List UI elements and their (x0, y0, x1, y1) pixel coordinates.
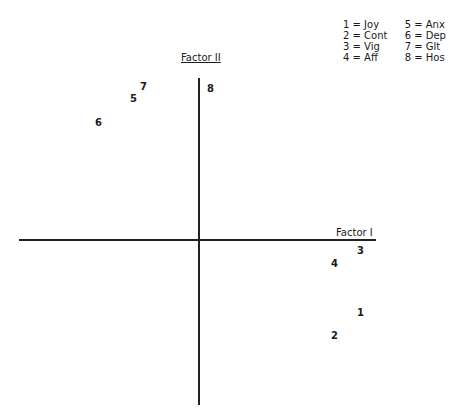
point-2: 2 (331, 330, 338, 341)
point-4: 4 (331, 258, 338, 269)
point-1: 1 (357, 307, 364, 318)
legend-item: 5 = Anx (405, 19, 446, 30)
legend-item: 4 = Aff (343, 52, 387, 63)
y-axis (198, 78, 200, 405)
point-6: 6 (95, 117, 102, 128)
point-8: 8 (207, 83, 214, 94)
legend-item: 6 = Dep (405, 30, 446, 41)
point-3: 3 (357, 245, 364, 256)
point-7: 7 (140, 81, 147, 92)
legend-item: 7 = Glt (405, 41, 446, 52)
legend-column-2: 5 = Anx 6 = Dep 7 = Glt 8 = Hos (405, 19, 446, 63)
legend-column-1: 1 = Joy 2 = Cont 3 = Vig 4 = Aff (343, 19, 387, 63)
y-axis-label: Factor II (181, 52, 221, 63)
legend: 1 = Joy 2 = Cont 3 = Vig 4 = Aff 5 = Anx… (343, 19, 460, 63)
legend-item: 1 = Joy (343, 19, 387, 30)
legend-item: 3 = Vig (343, 41, 387, 52)
x-axis-label: Factor I (336, 227, 373, 238)
legend-item: 8 = Hos (405, 52, 446, 63)
legend-item: 2 = Cont (343, 30, 387, 41)
point-5: 5 (130, 93, 137, 104)
